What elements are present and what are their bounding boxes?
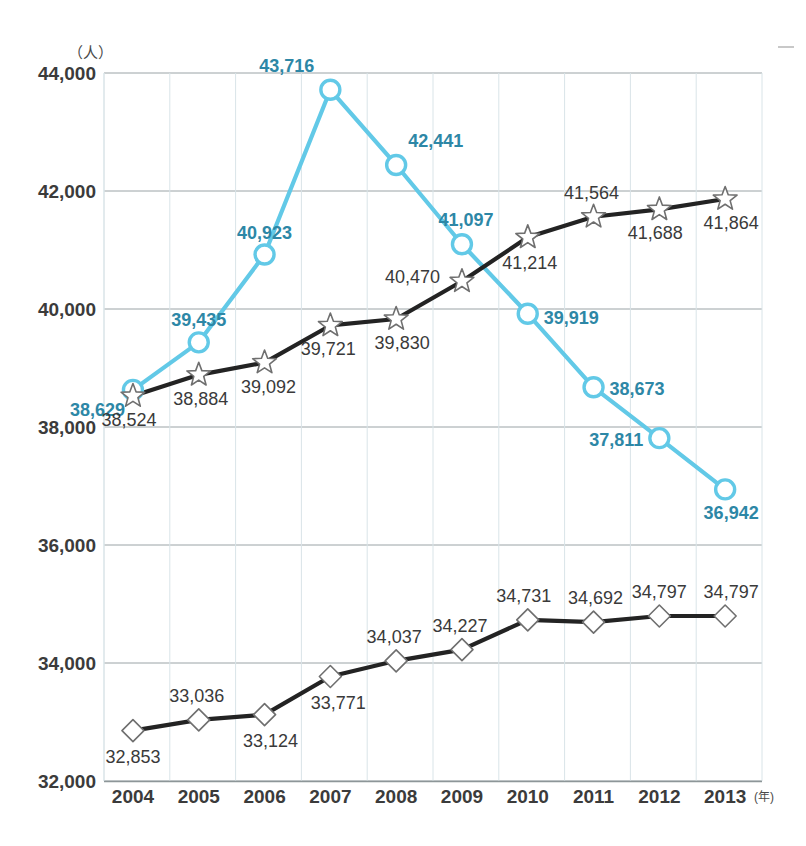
marker-cyan-circle-series-2005 [189, 333, 208, 352]
marker-cyan-circle-series-2011 [584, 378, 603, 397]
value-label-black-diamond-series-2005: 33,036 [169, 686, 224, 706]
value-label-black-diamond-series-2011: 34,692 [568, 588, 623, 608]
x-tick-label-2010: 2010 [507, 786, 549, 807]
marker-cyan-circle-series-2012 [650, 429, 669, 448]
value-label-black-star-series-2010: 41,214 [502, 253, 557, 273]
value-label-cyan-circle-series-2012: 37,811 [589, 430, 643, 450]
x-tick-label-2012: 2012 [638, 786, 680, 807]
value-label-cyan-circle-series-2010: 39,919 [544, 308, 599, 328]
x-axis-unit-label: (年) [754, 790, 774, 804]
y-tick-label-38000: 38,000 [38, 417, 96, 438]
marker-cyan-circle-series-2007 [321, 80, 340, 99]
value-label-black-diamond-series-2007: 33,771 [311, 693, 366, 713]
x-tick-label-2007: 2007 [309, 786, 351, 807]
y-tick-label-32000: 32,000 [38, 771, 96, 792]
x-tick-label-2004: 2004 [112, 786, 155, 807]
value-label-black-diamond-series-2010: 34,731 [496, 586, 551, 606]
value-label-cyan-circle-series-2013: 36,942 [704, 503, 759, 523]
marker-cyan-circle-series-2010 [518, 304, 537, 323]
x-tick-label-2006: 2006 [243, 786, 285, 807]
line-chart: （人） 32,00034,00036,00038,00040,00042,000… [0, 0, 806, 846]
value-label-black-diamond-series-2004: 32,853 [105, 747, 160, 767]
value-label-cyan-circle-series-2007: 43,716 [259, 56, 314, 76]
marker-cyan-circle-series-2008 [387, 155, 406, 174]
marker-cyan-circle-series-2006 [255, 245, 274, 264]
value-label-black-star-series-2009: 40,470 [385, 267, 440, 287]
value-label-black-diamond-series-2009: 34,227 [432, 616, 487, 636]
x-tick-label-2005: 2005 [178, 786, 221, 807]
value-label-black-star-series-2013: 41,864 [704, 213, 759, 233]
value-label-black-diamond-series-2012: 34,797 [632, 582, 687, 602]
value-label-cyan-circle-series-2009: 41,097 [438, 210, 493, 230]
value-label-black-diamond-series-2006: 33,124 [243, 731, 298, 751]
y-axis-unit-label: （人） [68, 44, 113, 61]
y-tick-label-34000: 34,000 [38, 653, 96, 674]
chart-container: （人） 32,00034,00036,00038,00040,00042,000… [0, 0, 806, 846]
value-label-black-star-series-2012: 41,688 [628, 223, 683, 243]
x-tick-label-2008: 2008 [375, 786, 417, 807]
value-label-cyan-circle-series-2006: 40,923 [237, 223, 292, 243]
x-tick-label-2013: 2013 [704, 786, 746, 807]
value-label-black-star-series-2005: 38,884 [173, 389, 228, 409]
value-label-black-star-series-2004: 38,524 [101, 410, 156, 430]
y-tick-label-44000: 44,000 [38, 63, 96, 84]
value-label-black-star-series-2008: 39,830 [375, 333, 430, 353]
value-label-black-diamond-series-2008: 34,037 [367, 627, 422, 647]
value-label-cyan-circle-series-2008: 42,441 [408, 131, 463, 151]
value-label-cyan-circle-series-2005: 39,435 [171, 310, 226, 330]
value-label-cyan-circle-series-2011: 38,673 [610, 379, 665, 399]
y-tick-label-40000: 40,000 [38, 299, 96, 320]
value-label-black-star-series-2007: 39,721 [301, 339, 356, 359]
x-tick-label-2009: 2009 [441, 786, 483, 807]
marker-cyan-circle-series-2013 [716, 480, 735, 499]
y-tick-label-36000: 36,000 [38, 535, 96, 556]
value-label-black-star-series-2011: 41,564 [564, 183, 619, 203]
y-tick-label-42000: 42,000 [38, 181, 96, 202]
x-tick-label-2011: 2011 [573, 786, 615, 807]
value-label-black-diamond-series-2013: 34,797 [704, 582, 759, 602]
marker-cyan-circle-series-2009 [452, 235, 471, 254]
value-label-black-star-series-2006: 39,092 [241, 377, 296, 397]
